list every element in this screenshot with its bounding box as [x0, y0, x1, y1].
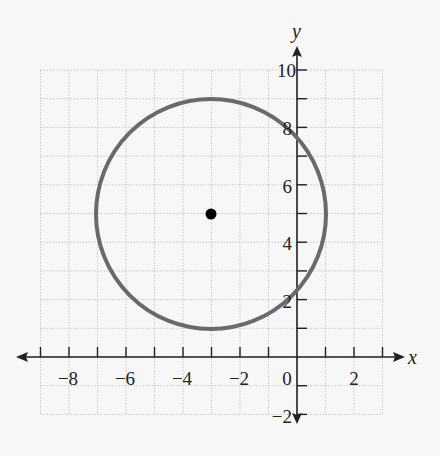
x-tick-label: 0	[282, 368, 292, 389]
y-tick-label: 8	[283, 118, 293, 139]
y-tick-label: 6	[283, 176, 293, 197]
x-tick-label: −6	[115, 368, 135, 389]
x-axis-label: x	[407, 346, 417, 368]
x-tick-label: 2	[349, 368, 359, 389]
y-tick-label: 2	[283, 291, 293, 312]
y-tick-label: 10	[277, 60, 296, 81]
grid	[41, 70, 383, 414]
x-tick-label: −2	[229, 368, 249, 389]
y-axis-label: y	[290, 20, 301, 43]
y-tick-label: 4	[283, 233, 293, 254]
y-tick-label: −2	[272, 406, 292, 427]
x-tick-label: −8	[58, 368, 78, 389]
x-tick-label: −4	[172, 368, 193, 389]
coordinate-plane: −8 −6 −4 −2 0 2 10 8 6 4 2 −2 x y	[0, 0, 440, 456]
center-point	[206, 209, 217, 220]
